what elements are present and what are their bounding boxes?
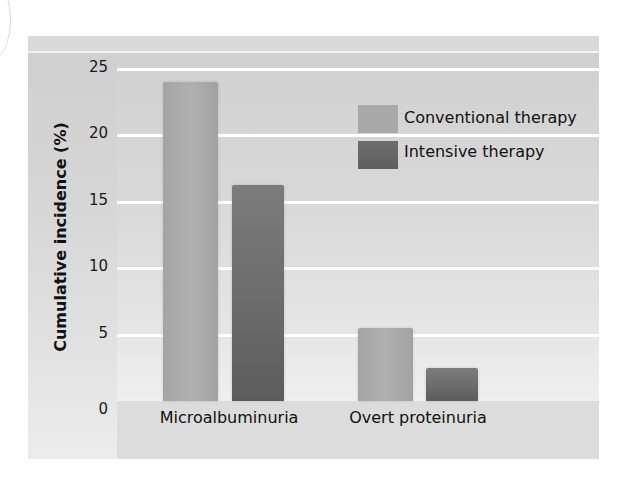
legend-swatch-intensive bbox=[358, 141, 398, 169]
y-tick-label: 5 bbox=[78, 324, 108, 342]
y-tick-label: 25 bbox=[78, 58, 108, 76]
y-axis-label: Cumulative incidence (%) bbox=[51, 122, 70, 352]
legend-label-intensive: Intensive therapy bbox=[404, 142, 545, 161]
page-edge-decoration bbox=[0, 0, 11, 60]
bar-int-0 bbox=[232, 185, 284, 401]
gridline bbox=[117, 68, 599, 71]
x-label-overt-proteinuria: Overt proteinuria bbox=[342, 408, 494, 427]
bar-conv-1 bbox=[358, 328, 413, 401]
legend-label-conventional: Conventional therapy bbox=[404, 108, 577, 127]
bar-conv-0 bbox=[163, 82, 218, 401]
legend-swatch-conventional bbox=[358, 105, 398, 133]
panel-top-stripe bbox=[28, 51, 599, 53]
y-tick-label: 20 bbox=[78, 124, 108, 142]
y-tick-label: 10 bbox=[78, 257, 108, 275]
y-tick-label: 0 bbox=[78, 400, 108, 418]
bar-int-1 bbox=[426, 368, 478, 401]
panel-top-band bbox=[28, 36, 599, 51]
y-tick-label: 15 bbox=[78, 191, 108, 209]
x-label-microalbuminuria: Microalbuminuria bbox=[155, 408, 303, 427]
